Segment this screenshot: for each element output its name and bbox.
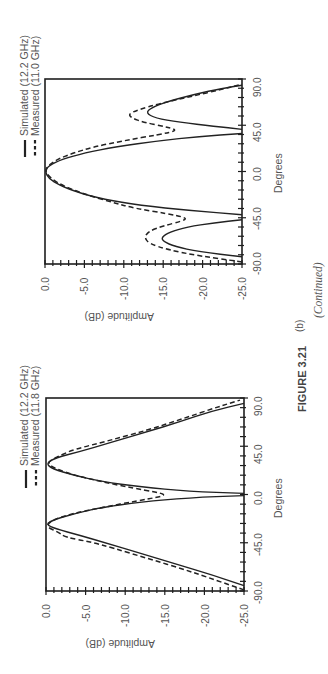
amp-label: -15.0 [160, 604, 171, 627]
legend-bottom: Simulated (12.2 GHz) Measured (11.8 GHz) [18, 365, 41, 488]
deg-label: 90.0 [253, 396, 264, 416]
deg-label: -45.0 [253, 533, 264, 556]
amp-label: -5.0 [81, 604, 92, 622]
amp-label: -25.0 [239, 604, 250, 627]
plot-curves-top [46, 84, 242, 262]
legend-top: Simulated (12.2 GHz) Measured (11.0 GHz) [18, 35, 41, 157]
deg-label: 0.0 [253, 491, 264, 505]
measured-curve [46, 84, 242, 262]
amp-label: -15.0 [158, 277, 169, 300]
legend-label-measured: Measured (11.0 GHz) [29, 36, 41, 136]
amp-label: -20.0 [198, 277, 209, 300]
plot-frame-bottom [46, 398, 244, 591]
measured-curve [48, 400, 244, 590]
simulated-curve [48, 496, 244, 586]
amp-label: -10.0 [119, 277, 130, 300]
x-axis-title-top: Degrees [272, 153, 284, 193]
deg-label: -90.0 [253, 581, 264, 604]
degree-tick-labels-bottom: 90.0 45.0 0.0 -45.0 -90.0 [253, 396, 264, 604]
chart-top: Simulated (12.2 GHz) Measured (11.0 GHz)… [18, 35, 284, 323]
deg-label: 45.0 [253, 444, 264, 464]
deg-label: 90.0 [252, 77, 263, 97]
caption-figure-label: FIGURE 3.21 [296, 346, 308, 412]
simulated-curve [46, 134, 242, 215]
legend-label-measured: Measured (11.8 GHz) [29, 366, 41, 466]
x-axis-title-bottom: Degrees [272, 478, 284, 518]
panel-label: (b) [294, 320, 305, 332]
chart-bottom: Simulated (12.2 GHz) Measured (11.8 GHz)… [18, 365, 284, 650]
figure-canvas: Simulated (12.2 GHz) Measured (11.0 GHz)… [0, 0, 328, 674]
deg-label: 0.0 [252, 167, 263, 181]
amp-label: -5.0 [79, 277, 90, 295]
amp-tick-labels-bottom: 0.0 -5.0 -10.0 -15.0 -20.0 -25.0 [41, 604, 250, 627]
deg-label: -90.0 [252, 252, 263, 275]
amp-tick-labels-top: 0.0 -5.0 -10.0 -15.0 -20.0 -25.0 [40, 277, 248, 300]
simulated-curve [148, 85, 242, 129]
y-axis-title-top: Amplitude (dB) [85, 311, 154, 323]
degree-tick-labels-top: 90.0 45.0 0.0 -45.0 -90.0 [252, 77, 263, 275]
plot-frame-top [45, 79, 242, 264]
amp-label: -25.0 [237, 277, 248, 300]
deg-label: 45.0 [252, 122, 263, 142]
figure-caption: (b) (Continued) FIGURE 3.21 [294, 262, 325, 412]
amp-label: 0.0 [41, 604, 52, 618]
y-axis-title-bottom: Amplitude (dB) [86, 638, 155, 650]
amp-label: -10.0 [120, 604, 131, 627]
plot-curves-bottom [48, 400, 244, 590]
amp-label: -20.0 [200, 604, 211, 627]
caption-continued: (Continued) [312, 262, 325, 318]
amp-label: 0.0 [40, 277, 51, 291]
deg-label: -45.0 [252, 207, 263, 230]
